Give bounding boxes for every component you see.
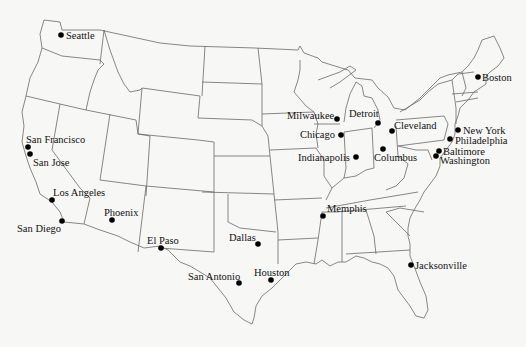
- city-label: El Paso: [147, 235, 179, 246]
- city-marker-icon: [433, 153, 439, 159]
- city-label: Seattle: [66, 30, 95, 41]
- us-state-borders-map: SeattleSan FranciscoSan JoseLos AngelesS…: [0, 0, 526, 347]
- city-marker-icon: [25, 144, 31, 150]
- city-marker-icon: [255, 241, 261, 247]
- city-phoenix: Phoenix: [104, 207, 139, 223]
- city-label: Cleveland: [394, 120, 437, 131]
- city-label: Indianapolis: [298, 152, 350, 163]
- city-marker-icon: [475, 74, 481, 80]
- city-detroit: Detroit: [349, 108, 381, 126]
- city-marker-icon: [49, 197, 55, 203]
- us-cities-map: SeattleSan FranciscoSan JoseLos AngelesS…: [0, 0, 526, 347]
- city-label: Houston: [254, 267, 290, 278]
- city-marker-icon: [380, 146, 386, 152]
- city-dallas: Dallas: [229, 232, 261, 247]
- city-marker-icon: [58, 32, 64, 38]
- city-indianapolis: Indianapolis: [298, 152, 359, 163]
- city-label: Los Angeles: [53, 187, 105, 198]
- city-san-francisco: San Francisco: [25, 134, 85, 150]
- city-los-angeles: Los Angeles: [49, 187, 105, 203]
- city-san-jose: San Jose: [27, 151, 70, 168]
- city-seattle: Seattle: [58, 30, 95, 41]
- city-label: Philadelphia: [455, 135, 508, 146]
- city-label: Memphis: [327, 203, 367, 214]
- city-marker-icon: [338, 132, 344, 138]
- city-label: San Antonio: [188, 271, 240, 282]
- city-label: Jacksonville: [415, 260, 467, 271]
- city-label: Phoenix: [104, 207, 139, 218]
- city-marker-icon: [447, 136, 453, 142]
- city-boston: Boston: [475, 72, 512, 83]
- city-marker-icon: [109, 217, 115, 223]
- city-marker-icon: [375, 120, 381, 126]
- city-marker-icon: [27, 151, 33, 157]
- city-philadelphia: Philadelphia: [447, 135, 508, 146]
- city-washington: Washington: [433, 153, 490, 166]
- city-label: Dallas: [229, 232, 256, 243]
- city-label: Chicago: [300, 129, 335, 140]
- city-memphis: Memphis: [320, 203, 366, 219]
- city-label: Columbus: [374, 152, 417, 163]
- city-milwaukee: Milwaukee: [287, 110, 340, 122]
- city-san-diego: San Diego: [17, 218, 65, 234]
- cities-layer: SeattleSan FranciscoSan JoseLos AngelesS…: [17, 30, 513, 286]
- state-borders: [22, 20, 504, 324]
- city-marker-icon: [436, 148, 442, 154]
- city-marker-icon: [334, 116, 340, 122]
- city-label: San Jose: [33, 157, 70, 168]
- city-marker-icon: [268, 277, 274, 283]
- city-label: San Francisco: [26, 134, 85, 145]
- city-label: Detroit: [349, 108, 379, 119]
- city-marker-icon: [320, 213, 326, 219]
- city-chicago: Chicago: [300, 129, 344, 140]
- city-houston: Houston: [254, 267, 290, 283]
- city-jacksonville: Jacksonville: [408, 260, 467, 271]
- city-label: San Diego: [17, 223, 61, 234]
- city-label: Milwaukee: [287, 110, 335, 121]
- city-el-paso: El Paso: [147, 235, 179, 251]
- city-label: Boston: [482, 72, 513, 83]
- city-marker-icon: [158, 245, 164, 251]
- city-marker-icon: [353, 154, 359, 160]
- city-marker-icon: [408, 262, 414, 268]
- city-marker-icon: [455, 127, 461, 133]
- city-label: Washington: [440, 155, 491, 166]
